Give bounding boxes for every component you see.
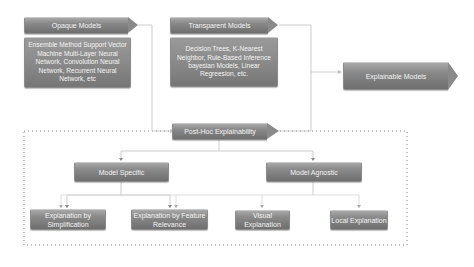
posthoc-explainability-node: Post-Hoc Explainability (172, 123, 267, 140)
leaf-title: Explanation by Simplification (31, 211, 105, 229)
opaque-models-description: Ensemble Method Support Vector Machine M… (28, 41, 127, 83)
model-specific-title: Model Specific (99, 168, 145, 177)
model-agnostic-node: Model Agnostic (266, 162, 362, 182)
opaque-models-arrow-icon (128, 17, 138, 33)
leaf-title: Local Explanation (331, 216, 386, 225)
leaf-title: Visual Explanation (236, 211, 289, 229)
transparent-models-body: Decision Trees, K-Nearest Neighbor, Rule… (170, 37, 278, 87)
leaf-local-explanation: Local Explanation (330, 210, 388, 230)
leaf-visual-explanation: Visual Explanation (235, 210, 290, 230)
opaque-models-header: Opaque Models (24, 17, 128, 34)
explainable-models-node: Explainable Models (343, 62, 448, 90)
transparent-models-header: Transparent Models (170, 17, 268, 34)
model-agnostic-title: Model Agnostic (290, 168, 337, 177)
explainable-models-title: Explainable Models (366, 72, 427, 81)
model-specific-node: Model Specific (74, 162, 169, 182)
opaque-models-body: Ensemble Method Support Vector Machine M… (24, 37, 131, 88)
leaf-explanation-by-simplification: Explanation by Simplification (30, 209, 106, 230)
opaque-models-title: Opaque Models (52, 21, 101, 30)
leaf-explanation-by-feature-relevance: Explanation by Feature Relevance (131, 209, 208, 230)
diagram-canvas: Opaque Models Ensemble Method Support Ve… (0, 0, 474, 267)
transparent-models-description: Decision Trees, K-Nearest Neighbor, Rule… (174, 45, 274, 79)
posthoc-explainability-title: Post-Hoc Explainability (184, 127, 256, 136)
posthoc-arrow-icon (267, 123, 279, 139)
transparent-models-arrow-icon (268, 17, 278, 33)
leaf-title: Explanation by Feature Relevance (132, 211, 207, 229)
transparent-models-title: Transparent Models (189, 21, 251, 30)
explainable-models-arrow-icon (448, 62, 458, 90)
